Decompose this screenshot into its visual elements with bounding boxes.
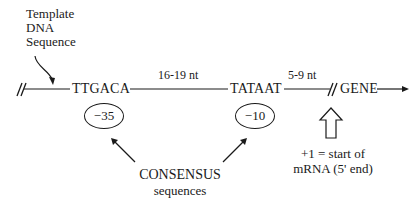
template-label-line1: Template bbox=[26, 7, 76, 21]
start-site-note-line2: mRNA (5' end) bbox=[283, 161, 383, 176]
template-arrow bbox=[35, 56, 52, 79]
start-site-arrow bbox=[320, 108, 342, 138]
consensus-arrow-left bbox=[113, 140, 135, 162]
minus10-sequence: TATAAT bbox=[230, 81, 282, 97]
template-label-line3: Sequence bbox=[26, 35, 76, 49]
minus10-oval: −10 bbox=[235, 103, 275, 129]
minus10-position: −10 bbox=[245, 108, 265, 124]
consensus-subtitle: sequences bbox=[130, 183, 230, 198]
consensus-arrow-right bbox=[223, 140, 245, 162]
template-label: Template DNA Sequence bbox=[26, 7, 76, 49]
spacer1-length: 16-19 nt bbox=[158, 69, 198, 82]
minus35-oval: −35 bbox=[84, 103, 124, 129]
start-site-note-line1: +1 = start of bbox=[283, 146, 383, 161]
consensus-title: CONSENSUS bbox=[130, 167, 230, 183]
start-site-note: +1 = start of mRNA (5' end) bbox=[283, 146, 383, 176]
template-label-line2: DNA bbox=[26, 21, 76, 35]
consensus-label: CONSENSUS sequences bbox=[130, 167, 230, 198]
gene-label: GENE bbox=[340, 81, 378, 97]
minus35-position: −35 bbox=[94, 108, 114, 124]
spacer2-length: 5-9 nt bbox=[288, 69, 316, 82]
minus35-sequence: TTGACA bbox=[72, 81, 130, 97]
